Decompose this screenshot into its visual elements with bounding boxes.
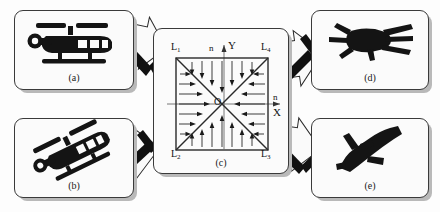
panel-e-thumb <box>312 119 428 177</box>
panel-a-thumb <box>15 11 133 69</box>
vectors-left-region <box>179 72 210 137</box>
helicopter-side-icon <box>22 14 126 66</box>
panel-card-d[interactable]: (d) <box>311 10 429 90</box>
panel-a-label: (a) <box>15 72 133 83</box>
normal-label-right: n <box>273 92 278 102</box>
axis-label-y: Y <box>228 39 236 51</box>
aircraft-front-icon <box>323 16 417 64</box>
normal-label-top: n <box>209 43 214 53</box>
panel-d-label: (d) <box>312 72 428 83</box>
corner-label-L4-sub: 4 <box>267 46 271 54</box>
panel-c-label: (c) <box>154 157 288 168</box>
panel-d-thumb <box>312 11 428 69</box>
axis-label-origin: O <box>214 96 221 107</box>
vectors-bottom-region <box>190 115 255 147</box>
aircraft-diagonal-icon <box>324 122 416 174</box>
panel-b-thumb <box>15 119 133 177</box>
helicopter-tilted-icon <box>22 121 126 175</box>
panel-e-label: (e) <box>312 180 428 191</box>
vectors-right-region <box>234 72 265 137</box>
panel-b-label: (b) <box>15 180 133 191</box>
panel-card-e[interactable]: (e) <box>311 118 429 198</box>
figure-root: (a) <box>0 0 440 212</box>
vectors-top-region <box>190 61 255 93</box>
corner-label-L1: L1 <box>171 41 181 54</box>
corner-label-L4: L4 <box>261 41 271 54</box>
panel-card-b[interactable]: (b) <box>14 118 134 198</box>
axis-label-x: X <box>273 106 281 118</box>
panel-card-c[interactable]: L1 L4 L2 L3 Y X O n n (c) <box>153 28 289 174</box>
panel-card-a[interactable]: (a) <box>14 10 134 90</box>
corner-label-L1-sub: 1 <box>177 46 181 54</box>
